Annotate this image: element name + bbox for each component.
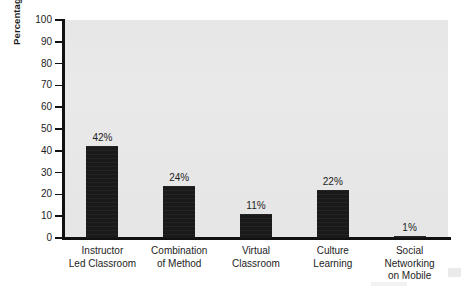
x-axis-category-label-line: Virtual: [218, 245, 295, 258]
x-axis-category-label: CultureLearning: [294, 245, 371, 270]
y-tick-mark: [55, 63, 62, 65]
y-tick-label: 80: [18, 59, 52, 69]
bar: [86, 146, 118, 238]
x-axis-category-label: SocialNetworkingon Mobile: [371, 245, 448, 283]
y-tick-label: 70: [18, 80, 52, 90]
y-tick-label: 0: [18, 233, 52, 243]
bar-value-label: 22%: [303, 176, 363, 187]
y-tick-mark: [55, 85, 62, 87]
y-tick-mark: [55, 237, 62, 239]
x-axis-category-label-line: Instructor: [64, 245, 141, 258]
x-axis-category-label: InstructorLed Classroom: [64, 245, 141, 270]
y-tick-mark: [55, 19, 62, 21]
x-axis-category-label: VirtualClassroom: [218, 245, 295, 270]
scan-artifact: [448, 268, 461, 277]
y-tick-label: 100: [18, 15, 52, 25]
x-axis-category-label-line: on Mobile: [371, 270, 448, 283]
y-axis-ticks: 0102030405060708090100: [0, 0, 62, 296]
y-tick-label: 20: [18, 189, 52, 199]
y-tick-mark: [55, 150, 62, 152]
y-tick-label: 90: [18, 37, 52, 47]
x-axis-category-label-line: Networking: [371, 258, 448, 271]
bar: [394, 236, 426, 238]
y-tick-mark: [55, 215, 62, 217]
bar-chart-figure: Percentage Using 0102030405060708090100 …: [0, 0, 465, 296]
bar-value-label: 11%: [226, 200, 286, 211]
x-axis-category-label-line: Culture: [294, 245, 371, 258]
y-tick-label: 40: [18, 146, 52, 156]
bar: [317, 190, 349, 238]
scan-artifact: [371, 282, 407, 286]
y-tick-mark: [55, 172, 62, 174]
y-tick-mark: [55, 128, 62, 130]
bar-value-label: 24%: [149, 172, 209, 183]
x-axis-category-label-line: Combination: [141, 245, 218, 258]
y-tick-mark: [55, 106, 62, 108]
y-tick-label: 50: [18, 124, 52, 134]
x-axis-category-label: Combinationof Method: [141, 245, 218, 270]
x-axis-category-label-line: Social: [371, 245, 448, 258]
y-tick-mark: [55, 41, 62, 43]
x-axis-category-label-line: Learning: [294, 258, 371, 271]
x-axis-category-label-line: of Method: [141, 258, 218, 271]
bar-value-label: 42%: [72, 132, 132, 143]
x-axis-category-label-line: Led Classroom: [64, 258, 141, 271]
bar: [163, 186, 195, 238]
x-axis-category-label-line: Classroom: [218, 258, 295, 271]
bar: [240, 214, 272, 238]
y-tick-label: 60: [18, 102, 52, 112]
y-tick-label: 10: [18, 211, 52, 221]
y-axis-line: [62, 19, 65, 239]
y-tick-label: 30: [18, 168, 52, 178]
bar-value-label: 1%: [380, 222, 440, 233]
y-tick-mark: [55, 194, 62, 196]
